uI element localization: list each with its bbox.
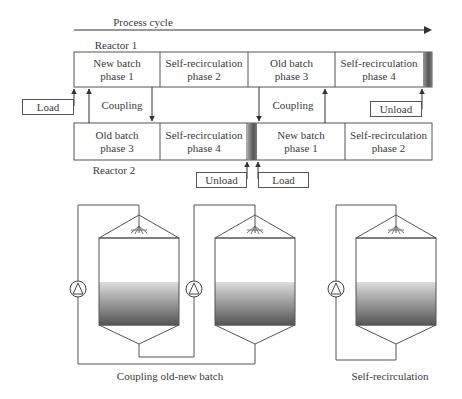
- reactor2-unload-bar: [248, 123, 257, 160]
- pump-icon: [70, 281, 86, 297]
- reactor2-phase-3: Old batch phase 3: [74, 123, 160, 160]
- reactor2-unload-tag: Unload: [196, 172, 247, 188]
- pump-icon: [186, 281, 202, 297]
- phase-name: Self-recirculation: [166, 57, 243, 70]
- reactor2-load-tag: Load: [258, 172, 309, 188]
- phase-number: phase 2: [372, 142, 405, 155]
- phase-number: phase 2: [187, 70, 220, 83]
- reactor1-unload-bar: [423, 52, 432, 87]
- coupling-label-1: Coupling: [96, 99, 148, 111]
- reactor1-phase-3: Old batch phase 3: [248, 52, 335, 87]
- process-cycle-title: Process cycle: [108, 16, 178, 28]
- reactor2-label: Reactor 2: [90, 164, 138, 176]
- coupling-label-2: Coupling: [267, 99, 319, 111]
- self-recirculation-caption: Self-recirculation: [340, 370, 440, 382]
- phase-name: New batch: [277, 129, 324, 142]
- phase-number: phase 3: [275, 70, 308, 83]
- phase-name: Self-recirculation: [341, 57, 418, 70]
- phase-name: New batch: [93, 57, 140, 70]
- reactor2-phase-4: Self-recirculation phase 4: [160, 123, 248, 160]
- reactor2-phase-2: Self-recirculation phase 2: [345, 123, 432, 160]
- reactor1-phase-4: Self-recirculation phase 4: [335, 52, 423, 87]
- phase-number: phase 3: [100, 142, 133, 155]
- spray-nozzle-icon: [131, 226, 404, 234]
- phase-number: phase 1: [100, 70, 133, 83]
- phase-name: Old batch: [270, 57, 313, 70]
- reactor1-label: Reactor 1: [92, 39, 140, 51]
- reactor2-phase-1: New batch phase 1: [257, 123, 345, 160]
- coupling-caption: Coupling old-new batch: [110, 370, 230, 382]
- phase-number: phase 4: [362, 70, 395, 83]
- self-recirculation-schematic: [336, 205, 436, 360]
- phase-name: Self-recirculation: [166, 129, 243, 142]
- pump-icon: [328, 281, 344, 297]
- reactor1-load-tag: Load: [22, 99, 74, 115]
- reactor1-phase-2: Self-recirculation phase 2: [160, 52, 248, 87]
- reactor1-unload-tag: Unload: [370, 101, 422, 117]
- reactor1-phase-1: New batch phase 1: [74, 52, 160, 87]
- phase-number: phase 4: [187, 142, 220, 155]
- phase-name: Old batch: [95, 129, 138, 142]
- coupling-schematic: [78, 205, 295, 364]
- phase-name: Self-recirculation: [350, 129, 427, 142]
- phase-number: phase 1: [284, 142, 317, 155]
